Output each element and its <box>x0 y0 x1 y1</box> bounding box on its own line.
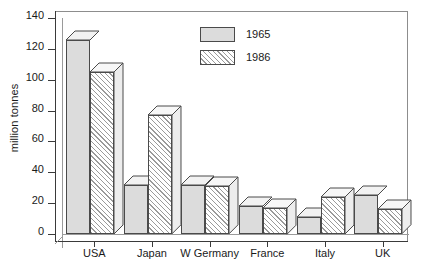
y-tick-mark <box>48 111 55 112</box>
bar-top-face <box>321 188 345 197</box>
bar-japan-1986[interactable] <box>148 115 172 234</box>
bar-top-face <box>148 106 172 115</box>
y-axis-line <box>55 11 56 241</box>
y-tick-label: 80 <box>32 103 44 114</box>
bar-front-face <box>90 72 114 234</box>
bar-italy-1965[interactable] <box>297 217 321 234</box>
bar-front-face <box>321 197 345 234</box>
bar-front-face <box>205 186 229 234</box>
bar-france-1986[interactable] <box>263 208 287 234</box>
bar-top-face <box>263 199 287 208</box>
bar-front-face <box>239 206 263 234</box>
y-tick-label: 0 <box>38 226 44 237</box>
x-axis-label-uk: UK <box>338 247 421 259</box>
y-tick-0: 0 <box>0 234 55 235</box>
y-tick-mark <box>48 172 55 173</box>
bar-side-face <box>114 63 123 234</box>
bar-group-usa <box>66 18 114 234</box>
bar-top-face <box>297 208 321 217</box>
bar-front-face <box>124 185 148 234</box>
y-tick-mark <box>48 18 55 19</box>
bar-front-face <box>378 209 402 234</box>
bar-front-face <box>297 217 321 234</box>
y-tick-mark <box>48 203 55 204</box>
y-tick-mark <box>48 49 55 50</box>
bar-group-japan <box>124 18 172 234</box>
bar-top-face <box>66 31 90 40</box>
y-tick-label: 120 <box>26 41 44 52</box>
bar-usa-1986[interactable] <box>90 72 114 234</box>
y-tick-140: 140 <box>0 18 55 19</box>
y-tick-label: 100 <box>26 72 44 83</box>
bar-top-face <box>205 177 229 186</box>
bar-france-1965[interactable] <box>239 206 263 234</box>
bar-italy-1986[interactable] <box>321 197 345 234</box>
x-axis-line <box>55 241 408 242</box>
bar-japan-1965[interactable] <box>124 185 148 234</box>
y-tick-label: 20 <box>32 195 44 206</box>
plot-area <box>62 18 408 234</box>
bar-front-face <box>354 195 378 234</box>
bar-top-face <box>239 197 263 206</box>
bar-w-germany-1986[interactable] <box>205 186 229 234</box>
bar-w-germany-1965[interactable] <box>181 185 205 234</box>
y-tick-mark <box>48 80 55 81</box>
y-tick-mark <box>48 234 55 235</box>
bar-top-face <box>90 63 114 72</box>
bar-usa-1965[interactable] <box>66 40 90 234</box>
bar-front-face <box>263 208 287 234</box>
bar-top-face <box>124 176 148 185</box>
bar-top-face <box>354 186 378 195</box>
legend-label-1965: 1965 <box>246 28 270 41</box>
y-tick-label: 60 <box>32 133 44 144</box>
legend-swatch-1986 <box>200 50 235 65</box>
clipped-title <box>150 0 410 7</box>
y-tick-20: 20 <box>0 203 55 204</box>
bar-uk-1986[interactable] <box>378 209 402 234</box>
bar-top-face <box>378 200 402 209</box>
bar-uk-1965[interactable] <box>354 195 378 234</box>
bar-group-italy <box>297 18 345 234</box>
y-tick-label: 40 <box>32 164 44 175</box>
axis-origin-skew <box>55 234 65 244</box>
y-tick-label: 140 <box>26 10 44 21</box>
bar-side-face <box>172 106 181 234</box>
bar-front-face <box>148 115 172 234</box>
bar-group-uk <box>354 18 402 234</box>
bar-front-face <box>181 185 205 234</box>
bar-top-face <box>181 176 205 185</box>
bar-front-face <box>66 40 90 234</box>
legend-swatch-1965 <box>200 27 235 42</box>
legend-label-1986: 1986 <box>246 51 270 64</box>
y-tick-mark <box>48 141 55 142</box>
y-tick-120: 120 <box>0 49 55 50</box>
y-axis-title: million tonnes <box>8 58 20 178</box>
bar-chart: 020406080100120140 million tonnes USAJap… <box>0 0 421 267</box>
